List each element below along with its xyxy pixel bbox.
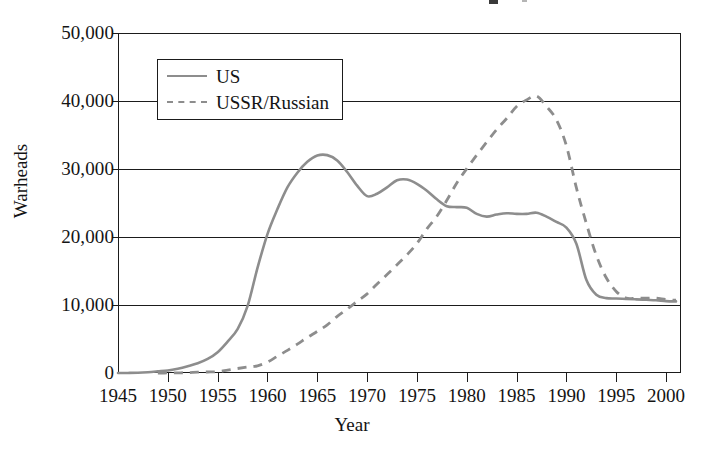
x-axis-title: Year	[0, 414, 704, 436]
xtick-mark-1950	[168, 373, 169, 382]
xtick-label-2000: 2000	[631, 385, 701, 407]
legend-item-ussr: USSR/Russian	[167, 89, 329, 115]
gridline-30000	[118, 169, 681, 170]
chart-figure: 50,000 40,000 30,000 20,000 10,000 0 War…	[0, 0, 704, 449]
cropped-title-artifact-secondary	[522, 0, 527, 2]
legend-item-us: US	[167, 63, 240, 89]
legend-label-ussr: USSR/Russian	[216, 93, 329, 112]
xtick-mark-1995	[616, 373, 617, 382]
ytick-label-10000: 10,000	[2, 295, 114, 314]
xtick-mark-1955	[218, 373, 219, 382]
ytick-label-50000: 50,000	[2, 23, 114, 42]
xtick-mark-1970	[367, 373, 368, 382]
ytick-label-0: 0	[2, 363, 114, 382]
xtick-mark-2000	[666, 373, 667, 382]
xtick-mark-1980	[467, 373, 468, 382]
gridline-10000	[118, 305, 681, 306]
xtick-mark-1965	[317, 373, 318, 382]
ytick-label-40000: 40,000	[2, 91, 114, 110]
xtick-mark-1975	[417, 373, 418, 382]
xtick-mark-1960	[267, 373, 268, 382]
xtick-mark-1990	[566, 373, 567, 382]
legend-dashed-line-icon	[167, 97, 207, 107]
legend-solid-line-icon	[167, 71, 207, 81]
legend-label-us: US	[216, 67, 240, 86]
chart-legend: US USSR/Russian	[157, 59, 343, 120]
gridline-20000	[118, 237, 681, 238]
y-axis-title: Warheads	[10, 116, 32, 246]
cropped-title-artifact	[489, 0, 498, 4]
xtick-mark-1985	[517, 373, 518, 382]
